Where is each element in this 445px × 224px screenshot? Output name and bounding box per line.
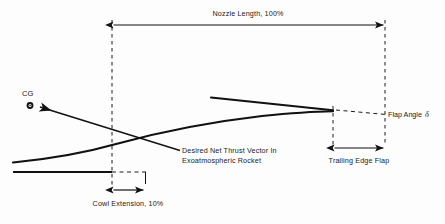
cg-marker-icon [27, 102, 34, 109]
flap-angle-reference-line [336, 110, 386, 115]
flap-angle-label: Flap Angleδ [388, 110, 429, 119]
cowl-extension-label: Cowl Extension, 10% [93, 199, 164, 208]
thrust-vector-label-line2: Exoatmospheric Rocket [182, 156, 261, 165]
nozzle-upper-contour [211, 98, 333, 111]
diagram-canvas: Nozzle Length, 100% Cowl Extension, 10% … [0, 0, 445, 224]
thrust-vector-arrow [40, 107, 180, 151]
nozzle-lower-contour [13, 111, 333, 162]
thrust-vector-label-line1: Desired Net Thrust Vector In [182, 146, 277, 155]
cg-label: CG [22, 89, 33, 98]
trailing-edge-flap-label: Trailing Edge Flap [329, 156, 390, 165]
nozzle-flap-diagram: Nozzle Length, 100% Cowl Extension, 10% … [0, 0, 445, 224]
cowl-extension-dashed [112, 172, 146, 184]
nozzle-length-label: Nozzle Length, 100% [212, 9, 284, 18]
